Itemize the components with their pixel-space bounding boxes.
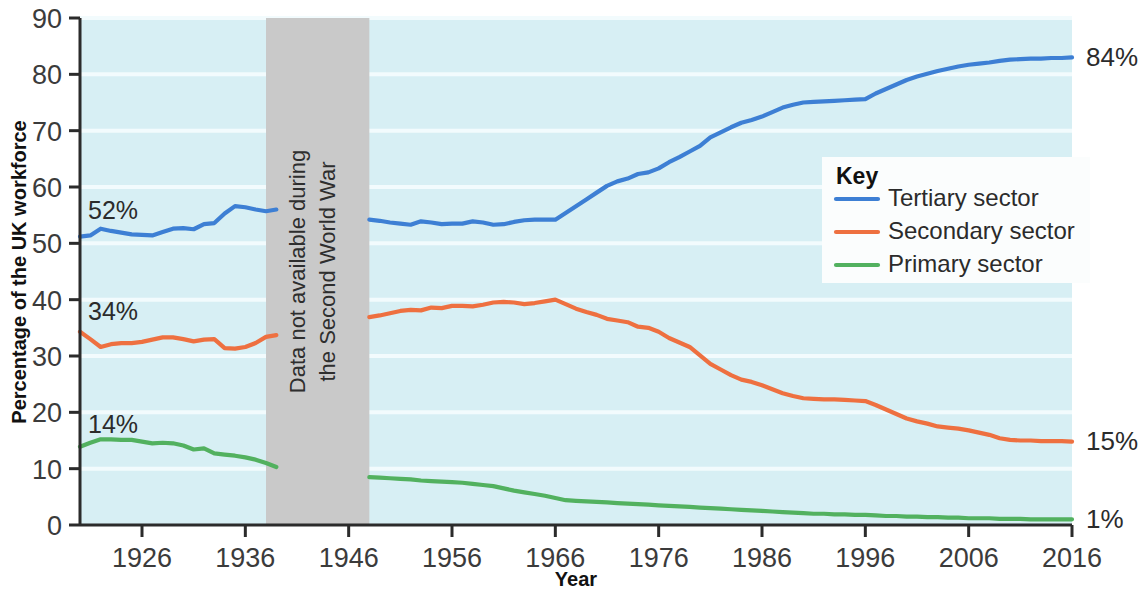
y-tick-label: 30	[32, 342, 62, 372]
x-tick-label: 1946	[319, 543, 379, 573]
x-axis-title: Year	[555, 568, 597, 590]
legend-label-secondary-sector: Secondary sector	[888, 217, 1075, 244]
war-band-group: Data not available during the Second Wor…	[266, 18, 369, 525]
x-tick-label: 1996	[835, 543, 895, 573]
x-tick-label: 1956	[422, 543, 482, 573]
y-tick-label: 10	[32, 455, 62, 485]
x-tick-label: 1976	[629, 543, 689, 573]
x-axis-ticks: 1926193619461956196619761986199620062016	[112, 525, 1102, 573]
right-annotation-84pct: 84%	[1086, 42, 1138, 72]
y-tick-label: 20	[32, 398, 62, 428]
y-axis-ticks: 0102030405060708090	[32, 4, 80, 541]
legend-label-primary-sector: Primary sector	[888, 250, 1043, 277]
y-axis-title: Percentage of the UK workforce	[8, 120, 30, 423]
line-chart: Data not available during the Second Wor…	[0, 0, 1138, 594]
y-tick-label: 70	[32, 117, 62, 147]
left-annotation-34pct: 34%	[88, 297, 138, 325]
legend-label-tertiary-sector: Tertiary sector	[888, 184, 1039, 211]
x-tick-label: 2006	[939, 543, 999, 573]
y-tick-label: 90	[32, 4, 62, 34]
left-annotation-52pct: 52%	[88, 196, 138, 224]
right-value-annotations: 84%15%1%	[1086, 42, 1138, 534]
left-annotation-14pct: 14%	[88, 410, 138, 438]
right-annotation-15pct: 15%	[1086, 426, 1138, 456]
right-annotation-1pct: 1%	[1086, 504, 1124, 534]
y-tick-label: 60	[32, 173, 62, 203]
y-tick-label: 40	[32, 286, 62, 316]
x-tick-label: 2016	[1042, 543, 1102, 573]
y-tick-label: 0	[47, 511, 62, 541]
chart-container: Data not available during the Second Wor…	[0, 0, 1138, 594]
x-tick-label: 1926	[112, 543, 172, 573]
x-tick-label: 1936	[215, 543, 275, 573]
y-tick-label: 80	[32, 60, 62, 90]
war-band-label-line2: the Second World War	[315, 161, 340, 381]
y-tick-label: 50	[32, 229, 62, 259]
legend: Key Tertiary sectorSecondary sectorPrima…	[822, 157, 1090, 283]
x-tick-label: 1986	[732, 543, 792, 573]
legend-title: Key	[836, 163, 878, 189]
war-band-label-line1: Data not available during	[285, 150, 310, 393]
